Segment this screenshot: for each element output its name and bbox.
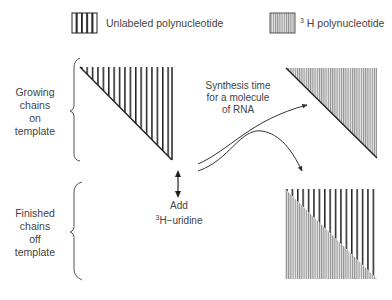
add-uridine-label: Add 3H−uridine (148, 200, 210, 227)
legend-labeled-label: 3 H polynucleotide (300, 17, 384, 29)
add-text: Add (148, 200, 210, 212)
synthesis-line-1: Synthesis time (198, 80, 278, 92)
synthesis-time-label: Synthesis time for a molecule of RNA (198, 80, 278, 116)
brace-finished (70, 182, 82, 280)
brace-growing (70, 58, 80, 161)
legend-labeled-swatch (270, 13, 295, 33)
growing-line-1: Growing (5, 86, 65, 99)
legend-unlabeled-swatch (72, 13, 97, 33)
finished-line-1: Finished (5, 207, 65, 220)
labeled-growing-triangle (286, 68, 377, 158)
synthesis-line-2: for a molecule (198, 92, 278, 104)
legend-labeled-main: H polynucleotide (307, 17, 385, 29)
arrow-to-finished (198, 131, 302, 171)
uridine-main: H−uridine (159, 215, 202, 226)
double-arrow-icon (175, 170, 181, 198)
growing-line-3: on (5, 112, 65, 125)
finished-chains-label: Finished chains off template (5, 207, 65, 259)
legend-unlabeled-label: Unlabeled polynucleotide (106, 17, 223, 29)
uridine-text: 3H−uridine (148, 212, 210, 227)
growing-line-2: chains (5, 99, 65, 112)
growing-chains-triangle (80, 67, 172, 160)
growing-chains-label: Growing chains on template (5, 86, 65, 138)
synthesis-line-3: of RNA (198, 104, 278, 116)
finished-line-2: chains (5, 220, 65, 233)
finished-chains-square (285, 189, 377, 279)
finished-line-3: off (5, 233, 65, 246)
finished-line-4: template (5, 246, 65, 259)
legend-labeled-sup: 3 (300, 17, 304, 24)
growing-line-4: template (5, 125, 65, 138)
